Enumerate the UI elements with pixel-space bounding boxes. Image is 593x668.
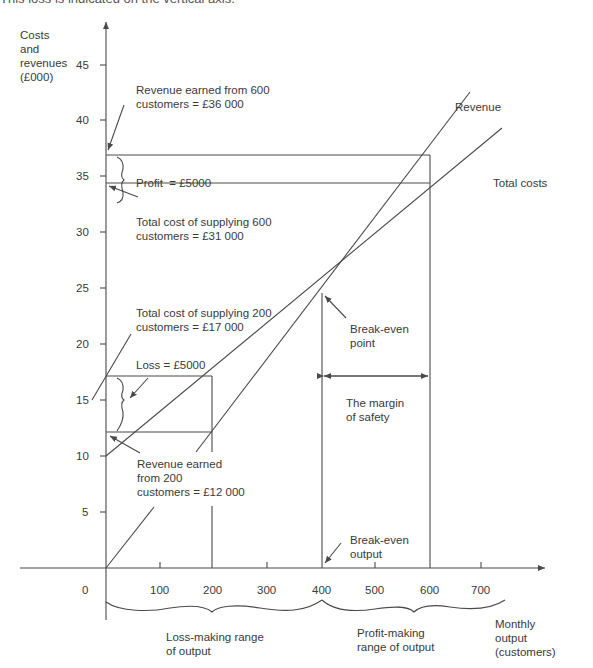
x-tick-700: 700 [471,584,490,596]
profit-brace [117,157,124,203]
profit-making-range-label: Profit-making range of output [357,626,434,654]
x-tick-100: 100 [150,584,169,596]
y-tick-45: 45 [76,59,89,71]
y-tick-25: 25 [76,282,89,294]
total-costs-series-label: Total costs [493,176,547,190]
profit-range-brace [322,600,505,612]
x-tick-600: 600 [420,584,439,596]
break-even-output-annotation: Break-even output [350,533,409,561]
y-tick-30: 30 [76,226,89,238]
x-tick-200: 200 [203,584,222,596]
x-tick-300: 300 [257,584,276,596]
revenue-line-lower [106,507,154,568]
total-cost-600-annotation: Total cost of supplying 600 customers = … [136,215,272,243]
revenue-200-annotation: Revenue earned from 200 customers = £12 … [137,457,245,499]
loss-annotation: Loss = £5000 [136,358,205,372]
y-axis-title: Costs and revenues (£000) [20,28,67,84]
loss-brace [117,378,124,431]
y-tick-15: 15 [76,394,89,406]
x-axis-title: Monthly output (customers) [495,617,556,659]
loss-making-range-label: Loss-making range of output [166,630,264,658]
origin-label: 0 [82,584,88,596]
break-even-point-annotation: Break-even point [350,322,409,350]
x-tick-500: 500 [365,584,384,596]
y-tick-5: 5 [82,506,88,518]
revenue-600-annotation: Revenue earned from 600 customers = £36 … [136,83,270,111]
loss-range-brace [106,600,327,613]
y-tick-35: 35 [76,170,89,182]
y-tick-20: 20 [76,338,89,350]
y-tick-10: 10 [76,450,89,462]
total-cost-200-annotation: Total cost of supplying 200 customers = … [136,306,272,334]
revenue-series-label: Revenue [455,100,501,114]
revenue-line-upper [196,92,470,452]
y-tick-40: 40 [76,114,89,126]
x-tick-400: 400 [312,584,331,596]
break-even-chart [0,0,593,668]
margin-of-safety-annotation: The margin of safety [346,396,404,424]
profit-annotation: Profit = £5000 [136,176,211,190]
